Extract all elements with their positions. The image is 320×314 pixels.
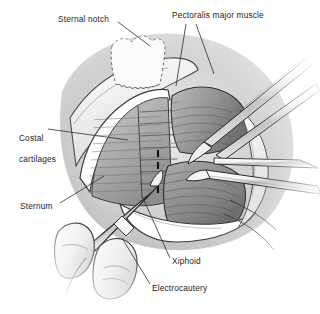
label-costal-cartilages-line2: cartilages: [19, 154, 56, 164]
label-costal-cartilages: Costal cartilages: [14, 122, 56, 164]
label-sternal-notch: Sternal notch: [58, 14, 109, 25]
label-sternum: Sternum: [20, 201, 53, 212]
label-xiphoid: Xiphoid: [172, 256, 201, 267]
label-electrocautery: Electrocautery: [152, 283, 207, 294]
label-pectoralis-major-muscle: Pectoralis major muscle: [172, 10, 264, 21]
label-costal-cartilages-line1: Costal: [19, 133, 44, 143]
surgical-illustration-figure: Sternal notch Pectoralis major muscle Co…: [0, 0, 320, 314]
